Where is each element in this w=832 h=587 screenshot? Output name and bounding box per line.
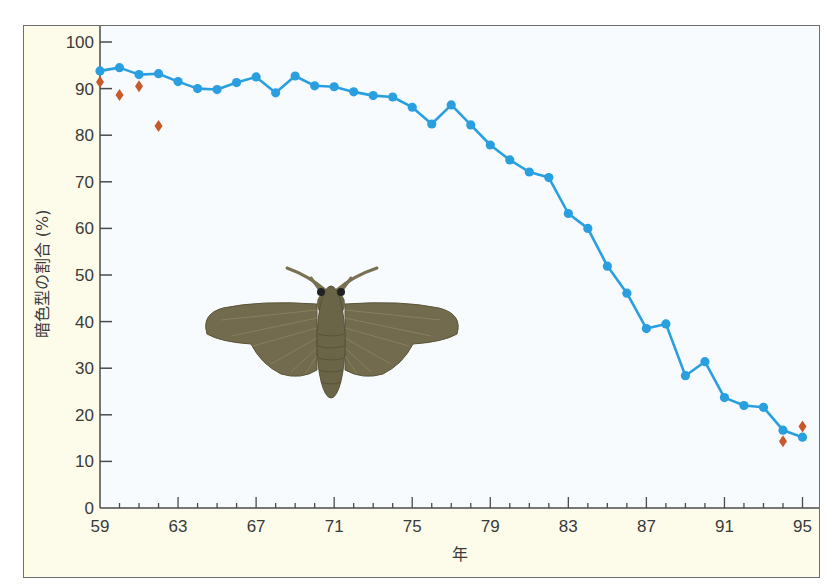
data-point bbox=[134, 70, 143, 79]
data-point bbox=[330, 82, 339, 91]
data-point bbox=[603, 262, 612, 271]
y-tick-label: 60 bbox=[75, 219, 94, 238]
data-point bbox=[466, 120, 475, 129]
data-point bbox=[525, 167, 534, 176]
data-point bbox=[661, 319, 670, 328]
x-tick-label: 75 bbox=[403, 517, 422, 536]
x-tick-label: 83 bbox=[559, 517, 578, 536]
data-point bbox=[720, 393, 729, 402]
y-axis-title: 暗色型の割合 (%) bbox=[33, 210, 52, 339]
data-point bbox=[232, 78, 241, 87]
data-point bbox=[798, 433, 807, 442]
x-tick-label: 59 bbox=[91, 517, 110, 536]
data-point bbox=[778, 426, 787, 435]
data-point bbox=[505, 155, 514, 164]
data-point bbox=[369, 91, 378, 100]
data-point bbox=[310, 81, 319, 90]
data-point bbox=[681, 371, 690, 380]
x-tick-label: 79 bbox=[481, 517, 500, 536]
data-point bbox=[544, 173, 553, 182]
y-tick-label: 50 bbox=[75, 266, 94, 285]
data-point bbox=[95, 66, 104, 75]
y-tick-label: 0 bbox=[85, 499, 94, 518]
data-point bbox=[388, 92, 397, 101]
data-point bbox=[622, 289, 631, 298]
data-point bbox=[193, 84, 202, 93]
x-tick-label: 91 bbox=[715, 517, 734, 536]
x-axis-title: 年 bbox=[452, 545, 468, 564]
plot-area bbox=[100, 26, 819, 508]
y-tick-label: 30 bbox=[75, 359, 94, 378]
data-point bbox=[291, 71, 300, 80]
data-point bbox=[486, 140, 495, 149]
y-tick-label: 20 bbox=[75, 406, 94, 425]
x-tick-label: 71 bbox=[325, 517, 344, 536]
x-tick-label: 67 bbox=[247, 517, 266, 536]
data-point bbox=[759, 403, 768, 412]
data-point bbox=[173, 77, 182, 86]
data-point bbox=[115, 63, 124, 72]
y-tick-label: 40 bbox=[75, 313, 94, 332]
y-tick-label: 80 bbox=[75, 126, 94, 145]
x-tick-label: 87 bbox=[637, 517, 656, 536]
data-point bbox=[408, 103, 417, 112]
y-tick-label: 70 bbox=[75, 173, 94, 192]
data-point bbox=[583, 224, 592, 233]
y-tick-label: 10 bbox=[75, 452, 94, 471]
data-point bbox=[739, 401, 748, 410]
x-tick-label: 63 bbox=[169, 517, 188, 536]
data-point bbox=[642, 324, 651, 333]
data-point bbox=[212, 85, 221, 94]
data-point bbox=[700, 357, 709, 366]
data-point bbox=[564, 209, 573, 218]
data-point bbox=[154, 69, 163, 78]
data-point bbox=[252, 72, 261, 81]
data-point bbox=[271, 88, 280, 97]
y-tick-label: 90 bbox=[75, 80, 94, 99]
data-point bbox=[427, 119, 436, 128]
chart: 0102030405060708090100596367717579838791… bbox=[0, 0, 832, 587]
data-point bbox=[349, 87, 358, 96]
y-tick-label: 100 bbox=[66, 33, 94, 52]
data-point bbox=[447, 100, 456, 109]
x-tick-label: 95 bbox=[793, 517, 812, 536]
